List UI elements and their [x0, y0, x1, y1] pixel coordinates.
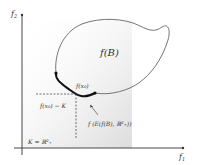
front-endpoint-top — [54, 71, 57, 74]
y-axis-arrow-icon — [21, 14, 23, 16]
diagram-canvas: f2 f1 f(B) f(x₀) f(x₀) − K f (E(f(B), ℝ²… — [0, 0, 199, 165]
cone-translate-label: f(x₀) − K — [39, 102, 67, 110]
x-axis-label: f1 — [178, 152, 185, 162]
y-axis-label: f2 — [10, 9, 17, 19]
set-label: f(B) — [99, 47, 119, 58]
x-axis-arrow-icon — [182, 147, 184, 149]
cone-label: K = ℝ²₊ — [27, 138, 52, 145]
front-endpoint-bottom — [93, 91, 96, 94]
point-label: f(x₀) — [75, 82, 89, 90]
efficient-label: f (E(f(B), ℝ²₊)) — [87, 120, 132, 128]
